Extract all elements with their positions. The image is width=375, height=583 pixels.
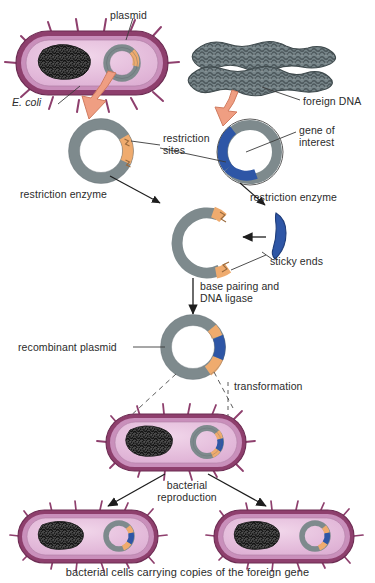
label-restriction-enzyme-left: restriction enzyme xyxy=(20,188,107,200)
step-daughter-cell-right xyxy=(206,501,363,571)
recombinant-join-top xyxy=(212,328,217,337)
bacterial-chromosome xyxy=(38,45,90,80)
label-plasmid: plasmid xyxy=(110,9,147,21)
bacterial-chromosome-right xyxy=(234,521,279,549)
dashed-transformation-right xyxy=(214,372,233,408)
gene-of-interest-arc-2 xyxy=(228,168,256,176)
step-foreign-dna xyxy=(188,41,335,100)
bacterial-chromosome-left xyxy=(38,521,83,549)
cut-plasmid-backbone xyxy=(177,213,220,273)
step-daughter-cell-left xyxy=(10,501,167,571)
label-foreign-dna: foreign DNA xyxy=(303,95,361,107)
step-transformed-bacterium xyxy=(97,404,255,480)
label-bacterial-reproduction: bacterial reproduction xyxy=(139,479,235,503)
recombinant-gene-insert xyxy=(218,337,220,358)
label-restriction-sites: restriction sites xyxy=(163,132,210,156)
label-restriction-enzyme-right: restriction enzyme xyxy=(250,191,337,203)
step-gene-fragment xyxy=(243,213,286,259)
bacterial-chromosome-transformed xyxy=(126,426,173,456)
gene-fragment-shape xyxy=(272,213,286,259)
step-recombinant-plasmid xyxy=(126,315,233,421)
plasmid-backbone xyxy=(74,124,128,178)
leader-restriction-sites-left xyxy=(131,141,160,145)
label-transformation: transformation xyxy=(234,380,303,392)
diagram-canvas: plasmid E. coli foreign DNA restriction … xyxy=(0,0,375,583)
dashed-transformation-left xyxy=(126,374,176,420)
leader-sticky-ends xyxy=(231,255,266,270)
chromosome-lower xyxy=(188,66,332,95)
arrow-foreign-dna-extract xyxy=(215,90,238,126)
arrow-restriction-enzyme-left xyxy=(110,176,160,203)
label-sticky-ends: sticky ends xyxy=(270,255,323,267)
label-base-pairing: base pairing and DNA ligase xyxy=(200,280,279,304)
label-bottom-caption: bacterial cells carrying copies of the f… xyxy=(0,566,375,578)
label-e-coli: E. coli xyxy=(12,96,41,108)
label-gene-of-interest: gene of interest xyxy=(299,124,335,148)
label-recombinant-plasmid: recombinant plasmid xyxy=(18,341,117,353)
step-cut-plasmid xyxy=(177,212,266,273)
